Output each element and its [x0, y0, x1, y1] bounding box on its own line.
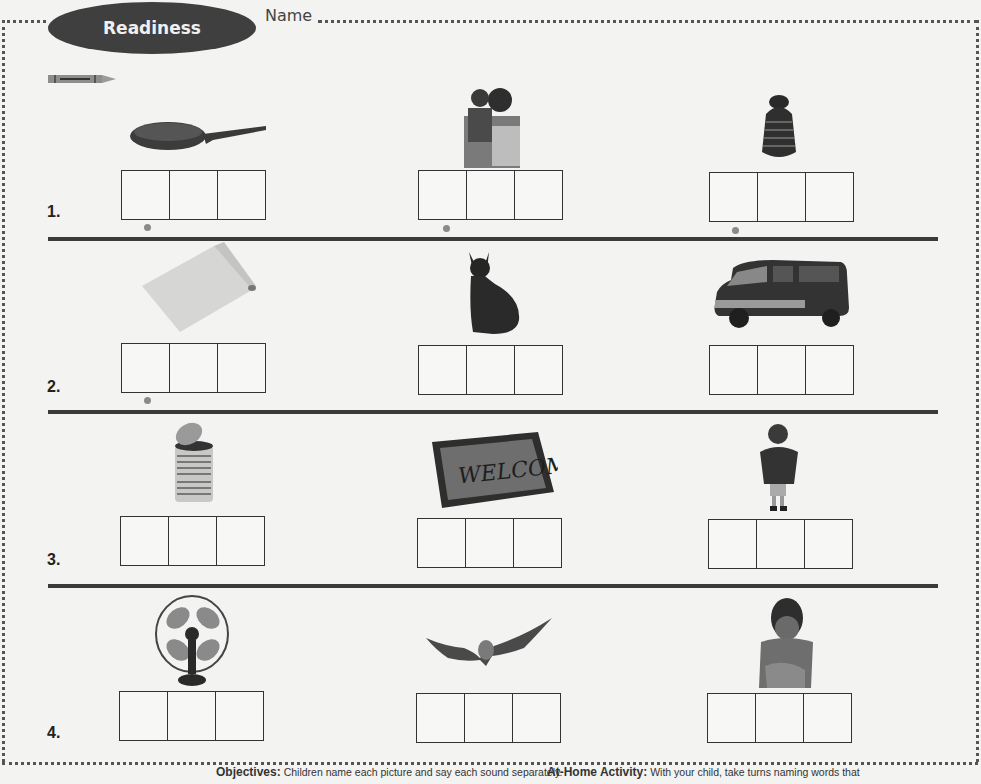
row-number: 2.	[47, 378, 60, 396]
paper-roll-picture	[140, 242, 256, 336]
sound-boxes	[707, 693, 852, 743]
sound-box[interactable]	[804, 694, 851, 742]
sound-box[interactable]	[170, 171, 218, 219]
sound-box[interactable]	[758, 173, 806, 221]
sound-boxes	[418, 345, 563, 395]
sound-box[interactable]	[515, 346, 562, 394]
badge-label: Readiness	[103, 18, 201, 38]
sound-box[interactable]	[169, 517, 217, 565]
dot-marker	[732, 227, 739, 234]
objectives-label: Objectives:	[216, 765, 281, 779]
sound-box[interactable]	[170, 344, 218, 392]
sound-box[interactable]	[710, 346, 758, 394]
sound-box[interactable]	[418, 519, 466, 567]
name-underline	[318, 20, 978, 23]
sound-boxes	[121, 170, 266, 220]
welcome-mat-picture: WELCOME	[428, 428, 558, 512]
objectives-footer: Objectives: Children name each picture a…	[216, 765, 562, 779]
sound-box[interactable]	[217, 517, 264, 565]
row-number: 3.	[47, 551, 60, 569]
sound-box[interactable]	[757, 520, 805, 568]
sound-box[interactable]	[467, 171, 515, 219]
sound-box[interactable]	[710, 173, 758, 221]
sound-box[interactable]	[466, 519, 514, 567]
name-label: Name	[265, 6, 312, 25]
sound-box[interactable]	[514, 519, 561, 567]
sound-boxes	[417, 518, 562, 568]
electric-fan-picture	[152, 594, 234, 688]
sound-box[interactable]	[216, 692, 263, 740]
dot-marker	[144, 224, 151, 231]
sound-box[interactable]	[168, 692, 216, 740]
dot-marker	[144, 397, 151, 404]
sound-boxes	[709, 345, 854, 395]
sound-box[interactable]	[467, 346, 515, 394]
row-number: 4.	[47, 724, 60, 742]
bat-picture	[424, 618, 554, 668]
sound-box[interactable]	[419, 171, 467, 219]
sound-box[interactable]	[756, 694, 804, 742]
sound-boxes	[120, 516, 265, 566]
sound-box[interactable]	[121, 517, 169, 565]
home-activity-footer: At-Home Activity: With your child, take …	[547, 765, 860, 779]
van-picture	[713, 258, 849, 328]
sound-box[interactable]	[806, 173, 853, 221]
sound-box[interactable]	[513, 694, 560, 742]
yarn-hat-picture	[760, 94, 798, 162]
sound-boxes	[709, 172, 854, 222]
home-activity-label: At-Home Activity:	[547, 765, 647, 779]
row-divider	[48, 410, 938, 414]
home-activity-text: With your child, take turns naming words…	[650, 766, 860, 778]
border-top-left	[2, 20, 46, 23]
border-left	[2, 20, 5, 762]
sound-boxes	[119, 691, 264, 741]
sound-box[interactable]	[218, 344, 265, 392]
sound-boxes	[121, 343, 266, 393]
sound-box[interactable]	[120, 692, 168, 740]
sound-box[interactable]	[805, 520, 852, 568]
boy-standing-picture	[756, 422, 802, 512]
sound-box[interactable]	[708, 694, 756, 742]
sound-box[interactable]	[515, 171, 562, 219]
sound-boxes	[708, 519, 853, 569]
row-divider	[48, 584, 938, 588]
row-number: 1.	[47, 203, 60, 221]
sound-box[interactable]	[709, 520, 757, 568]
frying-pan-picture	[128, 118, 268, 154]
open-can-picture	[173, 422, 215, 506]
readiness-badge: Readiness	[48, 2, 256, 54]
father-child-picture	[464, 86, 520, 168]
boy-sitting-picture	[755, 596, 815, 688]
sound-box[interactable]	[417, 694, 465, 742]
sound-box[interactable]	[465, 694, 513, 742]
cat-picture	[465, 250, 521, 336]
sound-box[interactable]	[758, 346, 806, 394]
objectives-text: Children name each picture and say each …	[284, 766, 563, 778]
sound-box[interactable]	[122, 171, 170, 219]
sound-box[interactable]	[806, 346, 853, 394]
sound-box[interactable]	[419, 346, 467, 394]
border-right	[976, 20, 979, 762]
sound-box[interactable]	[218, 171, 265, 219]
sound-boxes	[416, 693, 561, 743]
dot-marker	[443, 225, 450, 232]
crayon-icon	[48, 74, 116, 84]
sound-boxes	[418, 170, 563, 220]
row-divider	[48, 237, 938, 241]
sound-box[interactable]	[122, 344, 170, 392]
